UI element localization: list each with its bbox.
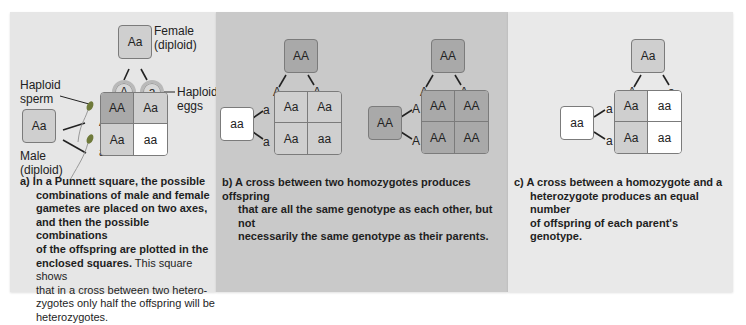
grid-cell: aa: [308, 123, 341, 154]
haploid-sperm-label: Haploid sperm: [20, 78, 61, 106]
male-label: Male (diploid): [20, 149, 63, 177]
top-parent: Aa: [631, 39, 665, 73]
panel-c-homozygote-heterozygote-cross: Aa A a aa a a Aa aa Aa aa c) A cross bet…: [508, 12, 733, 292]
grid-cell: AA: [422, 122, 455, 153]
cross1-left-allele: a: [263, 135, 270, 149]
grid-cell: aa: [134, 124, 167, 155]
grid-cell: aa: [648, 122, 681, 153]
sperm-label-line1: Haploid: [20, 78, 61, 92]
grid-cell: AA: [101, 93, 134, 124]
grid-cell: AA: [455, 91, 488, 122]
cross1-left-parent: aa: [220, 107, 254, 141]
caption-c-letter: c): [514, 176, 524, 188]
haploid-eggs-label: Haploid eggs: [177, 85, 218, 113]
sperm-label-line2: sperm: [20, 92, 61, 106]
left-parent: aa: [560, 106, 594, 140]
punnett-grid-a: AA Aa Aa aa: [100, 92, 168, 156]
grid-cell: Aa: [275, 123, 308, 154]
caption-a-line: combinations of male and female: [36, 189, 210, 201]
cross2-left-allele: A: [412, 134, 420, 148]
caption-a-line: enclosed squares.: [36, 257, 132, 269]
female-label-line2: (diploid): [154, 38, 197, 52]
female-label-line1: Female: [154, 24, 197, 38]
caption-a: a) In a Punnett square, the possible com…: [20, 175, 216, 325]
grid-cell: Aa: [134, 93, 167, 124]
grid-cell: AA: [455, 122, 488, 153]
panel-b-homozygote-crosses: AA A A aa a a Aa Aa Aa aa AA A A AA A A …: [216, 12, 508, 292]
panel-a-punnett-square: Aa Female (diploid) A a Haploid eggs Hap…: [10, 12, 216, 292]
grid-cell: aa: [648, 91, 681, 122]
caption-c: c) A cross between a homozygote and a he…: [514, 176, 729, 244]
grid-cell: Aa: [615, 91, 648, 122]
grid-cell: Aa: [308, 92, 341, 123]
caption-b-line: A cross between two homozygotes produces…: [222, 176, 471, 202]
caption-c-line: heterozygote produces an equal number: [514, 190, 729, 217]
caption-a-line: of the offspring are plotted in the: [36, 243, 208, 255]
caption-b-line: necessarily the same genotype as their p…: [222, 230, 508, 244]
caption-a-line: In a Punnett square, the possible: [33, 175, 205, 187]
left-allele: a: [606, 102, 613, 116]
grid-cell: Aa: [275, 92, 308, 123]
female-label: Female (diploid): [154, 24, 197, 52]
cross2-left-parent: AA: [368, 106, 402, 140]
caption-a-line: gametes are placed on two axes,: [36, 202, 207, 214]
caption-b-line: that are all the same genotype as each o…: [222, 203, 508, 230]
caption-a-line: and then the possible combinations: [36, 216, 149, 242]
male-parent-box: Aa: [22, 109, 56, 143]
male-label-line1: Male: [20, 149, 63, 163]
punnett-grid-c: Aa aa Aa aa: [614, 90, 682, 154]
caption-a-line: heterozygotes.: [20, 311, 216, 325]
caption-c-line: of offspring of each parent's genotype.: [514, 217, 729, 244]
cross1-top-parent: AA: [284, 39, 318, 73]
punnett-grid-b1: Aa Aa Aa aa: [274, 91, 342, 155]
cross2-top-parent: AA: [431, 39, 465, 73]
eggs-label-line1: Haploid: [177, 85, 218, 99]
female-parent-box: Aa: [118, 25, 152, 59]
caption-a-line: that in a cross between two hetero-: [20, 284, 216, 298]
grid-cell: AA: [422, 91, 455, 122]
cross1-left-allele: a: [263, 103, 270, 117]
caption-a-letter: a): [20, 175, 30, 187]
cross2-left-allele: A: [412, 102, 420, 116]
caption-b-letter: b): [222, 176, 232, 188]
grid-cell: Aa: [615, 122, 648, 153]
grid-cell: Aa: [101, 124, 134, 155]
caption-b: b) A cross between two homozygotes produ…: [222, 176, 508, 244]
caption-c-line: A cross between a homozygote and a: [526, 176, 722, 188]
left-allele: a: [606, 134, 613, 148]
caption-a-line: zygotes only half the offspring will be: [20, 297, 216, 311]
punnett-grid-b2: AA AA AA AA: [421, 90, 489, 154]
eggs-label-line2: eggs: [177, 99, 218, 113]
